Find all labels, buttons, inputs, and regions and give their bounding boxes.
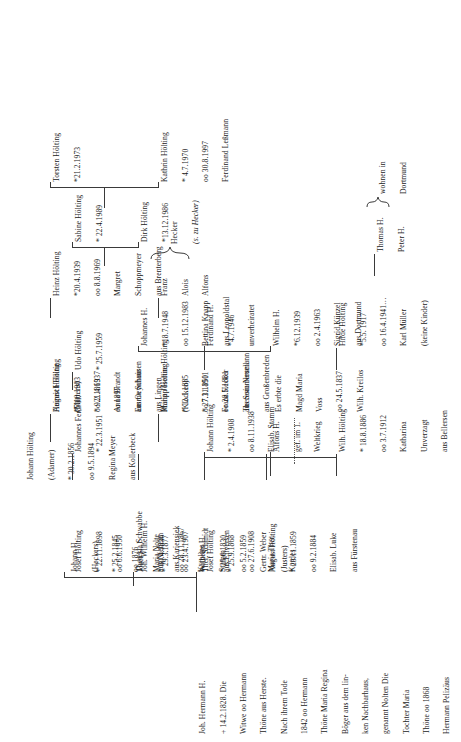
connector-g5-to-ferdinand [204,346,205,370]
connector-g3-maria [158,414,159,442]
node-line: * 22.4.1989 [95,146,105,242]
connector-g2-to-johann [64,572,65,578]
node-line: Bettina Knapp [201,246,211,346]
node-name: Josef Hölting [74,472,84,572]
node-line: Böger aus dem lin- [341,616,351,734]
connector-g2-g3-c [138,454,139,480]
node-line: Kordes [288,476,298,572]
node-wilh-hoelting-1886: Wilh. Hölting * 18.8.1886 oo 3.7.1912 Ka… [328,356,460,452]
node-line: oo 2.4.1963 [313,250,323,346]
node-line: aus Dortmund [354,250,364,346]
node-line: Elisab. Luke [329,476,339,572]
connector-g5-to-johannes [138,346,139,352]
node-line: Maria Ther. [267,476,277,572]
node-line: oo 30.8.1997 [201,74,211,182]
genealogy-sheet: Joh. Hermann H. + 14.2.1828. Die Witwe o… [0,0,461,742]
node-line: Theresia Schwabbe [135,472,145,572]
node-name: Joh. Hermann H. [198,616,208,734]
connector-g6-feed [104,248,105,266]
node-line: (keine Kinder) [420,250,430,346]
node-dirk-hoelting: Dirk Hölting *13.12.1986 [130,150,181,242]
chart-page: Joh. Hermann H. + 14.2.1828. Die Witwe o… [0,0,461,742]
node-name: Dirk Hölting [140,150,150,242]
connector-g5-to-wilhelm1939 [270,346,271,352]
node-line: Nach ihrem Tode [280,616,290,734]
node-line: oo 16.4.1941… [379,250,389,346]
node-line: Witwe oo Hermann [239,616,249,734]
node-line: oo 23.4.1907 [181,476,191,572]
node-line: oo 3.7.1912 [379,356,389,452]
node-line: oo 27.6.1908 [247,476,257,572]
node-line: Unverzagt [420,356,430,452]
connector-g4-feed [270,458,271,476]
node-line: unverheiratet [247,250,257,346]
node-line: Katharina [399,356,409,452]
node-line: Sigrid Künzel [333,250,343,346]
node-johannes-h-1948: Johannes H. *18.7.1948 oo 15.12.1983 Bet… [130,246,242,346]
node-line: Hermann Pelizäus [442,616,452,734]
node-line: wohnen in [378,124,388,194]
node-line: oo 9.2.1884 [309,476,319,572]
node-line: Ferdinand Leßmann [221,74,231,182]
node-ancestor-joh-hermann: Joh. Hermann H. + 14.2.1828. Die Witwe o… [188,616,461,734]
node-line: oo 8.11.1938 [247,352,257,452]
connector-johannes-ferd-udo [72,372,73,390]
node-line: *13.12.1986 [161,150,171,242]
connector-g6-to-dirk [138,242,139,248]
connector-g3-august1903 [50,414,51,442]
node-johann-hoelting-1908: Johann Hölting * 2.4.1908 oo 8.11.1938 E… [196,352,288,452]
node-line: Tochter Maria [402,616,412,734]
connector-g2-to-josef [133,572,134,586]
node-line: oo 6.6.1950 [115,472,125,572]
node-line: Weltkrieg [313,360,323,452]
node-line: aus Fürstenau [350,476,360,572]
node-line: genannt Nolten Die [381,616,391,734]
node-name: Johannes H. [140,246,150,346]
connector-g2-g3-d [72,454,73,480]
connector-g2-to-wilhelm [196,572,197,578]
node-line: aus Nieheim [156,472,166,572]
connector-g4-to-johann1908 [204,452,205,458]
node-line: * 22.11.1898 [95,472,105,572]
node-line: Elisab. Stamm [267,352,277,452]
node-line: aus Bellersen [440,356,450,452]
connector-g6-to-sabine [72,242,73,248]
node-name: Johann Hölting [206,352,216,452]
node-line: Thöne oo 1868 [422,616,432,734]
node-line: * 2.4.1908 [227,352,237,452]
node-line: Karl Müller [399,250,409,346]
node-sabine-hoelting: Sabine Hölting * 22.4.1989 [64,146,115,242]
node-name: Torsten Hölting [52,82,62,182]
node-line: gef. im 1. [293,360,303,452]
connector-g2-spine [64,577,196,578]
node-name: Heinz Hölting [52,186,62,296]
node-line: Ther. Schmidt [201,476,211,572]
node-wilhelm-h-1939: Wilhelm H. *6.12.1939 oo 2.4.1963 Sigrid… [262,250,374,346]
node-line: *6.12.1939 [293,250,303,346]
connector-g4-to-wilh1886 [336,454,337,476]
node-line: *18.7.1948 [161,246,171,346]
dortmund-child: Peter H. [397,192,407,252]
node-dortmund-note: wohnen in Dortmund [368,124,419,194]
connector-heinz-in [50,298,51,318]
node-line: 1842 oo Hermann [300,616,310,734]
node-line: Thöne Maria Regina [320,616,330,734]
node-name: Wilh. Hölting [338,356,348,452]
connector-ancestor-out [196,578,197,612]
connector-dortmund-in [374,254,375,276]
node-name: Sabine Hölting [74,146,84,242]
node-line: * 18.8.1886 [359,356,369,452]
node-josef-hoelting-1898: Josef Hölting * 22.11.1898 oo 6.6.1950 T… [64,472,176,572]
node-line: aus Leopoldstal [222,246,232,346]
connector-g5b-to-torsten [50,182,51,188]
node-line: oo 15.12.1983 [181,246,191,346]
node-name: August Hölting [52,304,62,412]
node-line: * 4.7.1970 [181,74,191,182]
connector-hilde-in [336,348,337,370]
brace-icon-dortmund [366,196,390,208]
node-line: Thöne aus Herste. [259,616,269,734]
node-line: Dortmund [399,124,409,194]
node-line: ken Nachbarhaus, [361,616,371,734]
node-line: + 14.2.1828. Die [219,616,229,734]
node-name: Wilhelm H. [272,250,282,346]
